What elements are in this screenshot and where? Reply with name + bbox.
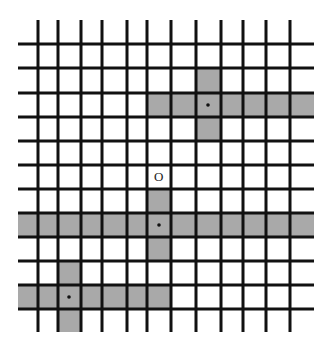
dot-bottom-left xyxy=(67,295,71,299)
dot-middle xyxy=(157,223,161,227)
grid-diagram xyxy=(0,0,329,349)
origin-label: O xyxy=(154,169,163,185)
dot-top-right xyxy=(206,103,210,107)
